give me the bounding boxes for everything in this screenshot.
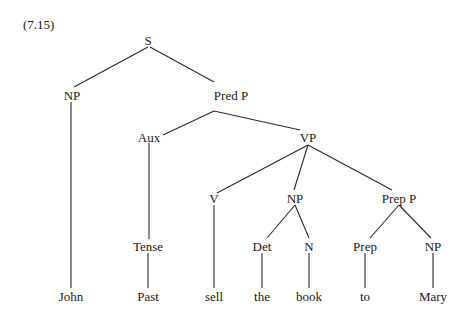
node-np-subject: NP bbox=[64, 89, 81, 102]
node-det: Det bbox=[253, 240, 272, 253]
node-pred-p: Pred P bbox=[214, 89, 248, 102]
tree-edge-predp-vp bbox=[214, 111, 300, 130]
node-np-prep-object: NP bbox=[425, 240, 442, 253]
tree-edge-predp-aux bbox=[163, 111, 214, 135]
node-v: V bbox=[209, 192, 218, 205]
leaf-past: Past bbox=[137, 290, 159, 303]
tree-edge-np2-det bbox=[267, 205, 295, 238]
leaf-to: to bbox=[360, 290, 370, 303]
node-prep-p: Prep P bbox=[382, 192, 416, 205]
leaf-john: John bbox=[59, 290, 84, 303]
tree-edge-prepp-np3 bbox=[399, 205, 431, 238]
node-n: N bbox=[304, 240, 313, 253]
node-tense: Tense bbox=[133, 240, 163, 253]
tree-edge-s-predp bbox=[150, 47, 214, 82]
syntax-tree-edges bbox=[0, 0, 469, 313]
tree-edge-prepp-prep bbox=[370, 205, 399, 238]
tree-edge-vp-v bbox=[217, 145, 308, 193]
node-prep: Prep bbox=[353, 240, 377, 253]
node-s: S bbox=[144, 34, 151, 47]
leaf-book: book bbox=[296, 290, 322, 303]
node-aux: Aux bbox=[138, 131, 160, 144]
node-np-object: NP bbox=[287, 192, 304, 205]
tree-edge-s-np1 bbox=[74, 47, 148, 87]
tree-edge-np2-n bbox=[295, 205, 309, 238]
leaf-mary: Mary bbox=[419, 290, 447, 303]
leaf-the: the bbox=[254, 290, 270, 303]
leaf-sell: sell bbox=[205, 290, 223, 303]
tree-edge-vp-prepp bbox=[308, 145, 392, 190]
node-vp: VP bbox=[300, 131, 317, 144]
